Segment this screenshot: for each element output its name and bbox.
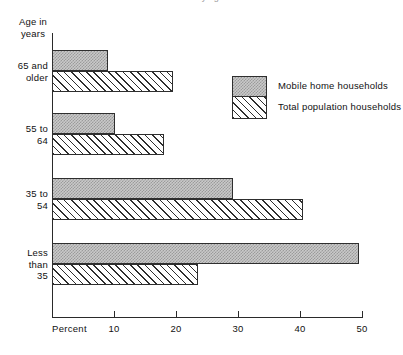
x-axis-tick-30: [238, 311, 239, 318]
legend-swatch-hatch-icon: [232, 97, 267, 119]
bar-mobile-2: [52, 178, 233, 199]
bar-mobile-1: [52, 113, 115, 134]
bar-total-2: [52, 199, 303, 220]
y-axis-caption-line-1: Age in: [8, 16, 58, 28]
category-label-line: 65 and: [0, 60, 48, 72]
category-label-line: 35 to: [0, 188, 48, 200]
legend-label-total: Total population households: [278, 101, 401, 113]
x-axis-tick-40: [300, 311, 301, 318]
y-axis-category-label-1: 55 to64: [0, 123, 48, 146]
bar-total-0: [52, 71, 173, 92]
y-axis-category-label-0: 65 andolder: [0, 60, 48, 83]
x-axis-unit-label: Percent: [52, 323, 87, 334]
x-axis-tick-label-10: 10: [108, 323, 119, 334]
x-axis-tick-label-50: 50: [356, 323, 367, 334]
bar-total-3: [52, 264, 198, 285]
x-axis-line: [52, 317, 363, 318]
bar-mobile-0: [52, 50, 108, 71]
chart-title-cropped: Percent distribution by age of household…: [0, 0, 403, 9]
category-label-line: Less: [0, 247, 48, 259]
y-axis-caption-line-2: years: [8, 28, 58, 40]
x-axis-tick-label-20: 20: [170, 323, 181, 334]
x-axis-tick-label-40: 40: [294, 323, 305, 334]
category-label-line: 35: [0, 270, 48, 282]
bar-chart: Percent distribution by age of household…: [0, 0, 403, 355]
x-axis-tick-50: [362, 311, 363, 318]
category-label-line: than: [0, 258, 48, 270]
y-axis-category-label-2: 35 to54: [0, 188, 48, 211]
chart-title-text: Percent distribution by age of household…: [117, 0, 286, 2]
bar-mobile-3: [52, 243, 359, 264]
category-label-line: older: [0, 71, 48, 83]
x-axis-tick-label-30: 30: [232, 323, 243, 334]
legend-swatch-stipple-icon: [232, 76, 267, 97]
category-label-line: 64: [0, 134, 48, 146]
x-axis-tick-10: [114, 311, 115, 318]
legend-label-mobile: Mobile home households: [278, 80, 388, 92]
bar-total-1: [52, 134, 164, 155]
y-axis-category-label-3: Lessthan35: [0, 247, 48, 282]
category-label-line: 55 to: [0, 123, 48, 135]
y-axis-caption: Age in years: [8, 16, 58, 40]
category-label-line: 54: [0, 199, 48, 211]
x-axis-tick-20: [176, 311, 177, 318]
